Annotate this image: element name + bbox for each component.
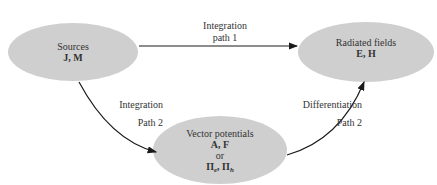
vector-potentials-label: Vector potentials A, F or Πe, Πh: [170, 128, 270, 176]
potentials-or: or: [170, 150, 270, 161]
radiated-fields-label: Radiated fields E, H: [316, 37, 416, 59]
radiated-title: Radiated fields: [316, 37, 416, 48]
sources-title: Sources: [33, 41, 113, 52]
differentiation-path2-label: Differentiation Path 2: [282, 96, 362, 132]
sources-symbols: J, M: [33, 52, 113, 63]
potentials-pi: Πe, Πh: [170, 161, 270, 176]
path1-label: Integration path 1: [180, 20, 270, 44]
integration-path2-label: Integration Path 2: [93, 96, 163, 132]
potentials-title: Vector potentials: [170, 128, 270, 139]
sources-label: Sources J, M: [33, 41, 113, 63]
radiated-symbols: E, H: [316, 48, 416, 59]
potentials-symbols: A, F: [170, 139, 270, 150]
